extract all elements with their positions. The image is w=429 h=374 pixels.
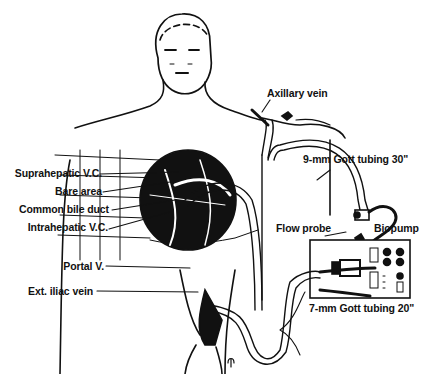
label-flow-probe: Flow probe	[276, 222, 331, 234]
biopump-console	[310, 240, 410, 298]
patient-head	[156, 14, 212, 94]
label-common-bile-duct: Common bile duct	[13, 203, 109, 215]
label-gott-tubing-9mm: 9-mm Gott tubing 30"	[303, 153, 408, 165]
label-ext-iliac-vein: Ext. iliac vein	[28, 285, 93, 297]
label-biopump: Biopump	[374, 222, 419, 234]
liver	[140, 150, 236, 250]
label-suprahepatic-vc: Suprahepatic V.C.	[13, 167, 102, 179]
label-portal-v: Portal V.	[13, 260, 104, 272]
gott-tubing-7mm	[210, 271, 320, 364]
label-gott-tubing-7mm: 7-mm Gott tubing 20"	[309, 302, 414, 314]
label-bare-area: Bare area	[13, 185, 102, 197]
label-axillary-vein: Axillary vein	[267, 87, 328, 99]
patient-pelvis	[180, 270, 235, 374]
label-intrahepatic-vc: Intrahepatic V.C.	[13, 221, 108, 233]
